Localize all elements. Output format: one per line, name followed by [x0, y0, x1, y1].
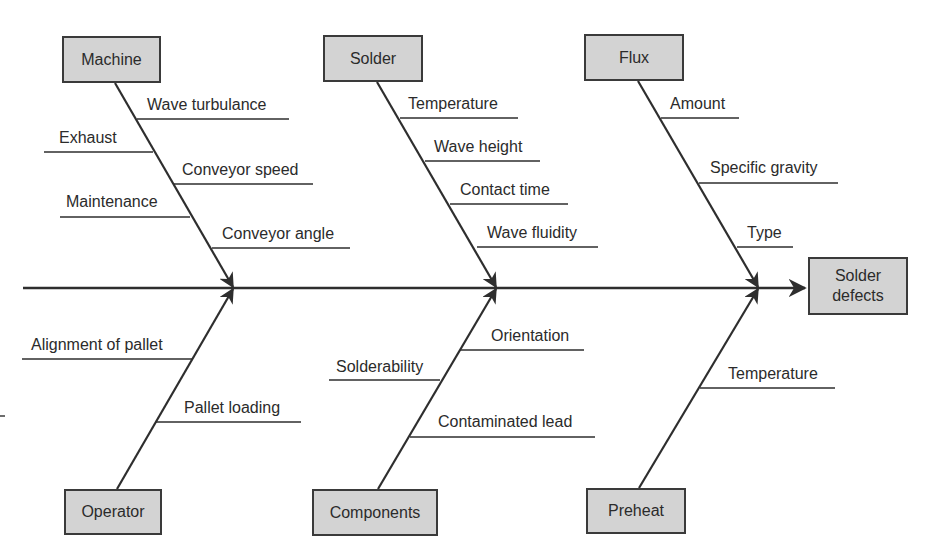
- cause-label: Type: [747, 224, 782, 242]
- category-label: Preheat: [608, 501, 664, 521]
- cause-label: Conveyor angle: [222, 225, 334, 243]
- cause-label: Contact time: [460, 181, 550, 199]
- cause-label: Temperature: [408, 95, 498, 113]
- category-label: Operator: [81, 502, 144, 522]
- cause-label: Wave fluidity: [487, 224, 577, 242]
- cause-label: Maintenance: [66, 193, 158, 211]
- cause-label: Alignment of pallet: [31, 336, 163, 354]
- category-box-machine: Machine: [62, 36, 161, 83]
- cause-label: Amount: [670, 95, 725, 113]
- cause-label: Wave turbulance: [147, 96, 266, 114]
- cause-label: Exhaust: [59, 129, 117, 147]
- bone-components-arrow: [378, 289, 496, 489]
- cause-label: Pallet loading: [184, 399, 280, 417]
- effect-label: Solder defects: [823, 266, 893, 306]
- category-box-operator: Operator: [64, 489, 162, 535]
- cause-label: Wave height: [434, 138, 522, 156]
- cause-label: Contaminated lead: [438, 413, 572, 431]
- category-label: Flux: [619, 48, 649, 68]
- category-label: Solder: [350, 49, 396, 69]
- cause-label: Orientation: [491, 327, 569, 345]
- category-label: Machine: [81, 50, 141, 70]
- category-label: Components: [330, 503, 421, 523]
- cause-label: Solderability: [336, 358, 423, 376]
- cause-label: Specific gravity: [710, 159, 818, 177]
- category-box-preheat: Preheat: [586, 488, 686, 534]
- category-box-flux: Flux: [584, 34, 684, 81]
- category-box-components: Components: [312, 489, 438, 536]
- cause-label: Conveyor speed: [182, 161, 299, 179]
- cause-label: Temperature: [728, 365, 818, 383]
- bone-operator-arrow: [117, 289, 233, 489]
- category-box-solder: Solder: [323, 35, 423, 82]
- effect-box: Solder defects: [808, 257, 908, 315]
